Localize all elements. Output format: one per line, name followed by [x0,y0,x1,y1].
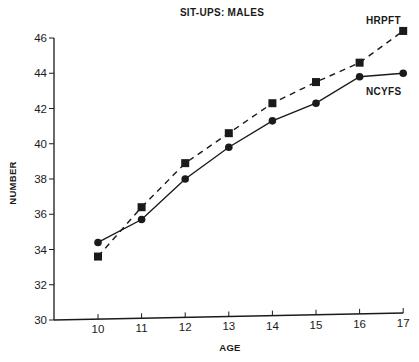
y-axis-label: NUMBER [7,161,18,205]
series-label-ncyfs: NCYFS [366,86,401,97]
square-marker [138,203,146,211]
y-tick-label: 34 [34,244,47,256]
y-tick-label: 40 [34,138,47,150]
square-marker [225,129,233,137]
circle-marker [225,143,233,151]
x-tick-label: 17 [397,317,410,329]
line-chart: SIT-UPS: MALES NUMBER AGE 30323436384042… [0,0,419,362]
square-marker [399,27,407,35]
y-tick-label: 38 [34,173,47,185]
circle-marker [138,216,146,224]
circle-marker [356,73,364,81]
x-tick-label: 15 [310,319,323,331]
y-axis-ticks: 303234363840424446 [34,32,54,326]
x-tick-label: 10 [92,323,105,335]
x-tick-label: 13 [222,320,235,332]
circle-marker [269,117,277,125]
square-marker [181,159,189,167]
y-tick-label: 32 [34,279,47,291]
square-marker [94,253,102,261]
circle-marker [94,239,102,247]
circle-marker [312,99,320,107]
y-tick-label: 46 [34,32,47,44]
x-axis-label: AGE [219,342,241,353]
x-tick-label: 12 [179,321,192,333]
circle-marker [181,175,189,183]
y-tick-label: 30 [34,314,47,326]
chart-title: SIT-UPS: MALES [180,7,264,18]
x-tick-label: 11 [136,322,148,334]
x-tick-label: 16 [353,318,366,330]
square-marker [356,59,364,67]
x-axis-ticks: 1011121314151617 [92,308,410,335]
series-markers [94,27,407,261]
square-marker [312,78,320,86]
y-tick-label: 44 [34,67,47,79]
circle-marker [399,69,407,77]
y-tick-label: 42 [34,103,47,115]
series-label-hrpft: HRPFT [366,15,401,26]
square-marker [268,99,276,107]
y-tick-label: 36 [34,208,47,220]
x-tick-label: 14 [266,320,279,332]
axes [54,38,403,320]
